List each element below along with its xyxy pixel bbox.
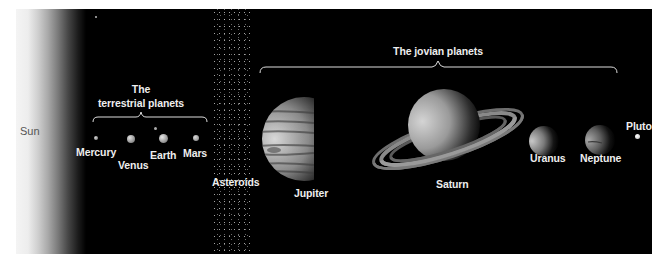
terrestrial-bracket-icon bbox=[92, 111, 208, 123]
neptune-label: Neptune bbox=[580, 152, 621, 164]
mercury-label: Mercury bbox=[76, 146, 116, 158]
saturn-graphic bbox=[366, 87, 531, 187]
terrestrial-group-label-line2: terrestrial planets bbox=[98, 97, 184, 109]
star-dot bbox=[95, 16, 97, 18]
mars-label: Mars bbox=[183, 147, 207, 159]
uranus-label: Uranus bbox=[530, 152, 566, 164]
earth-label: Earth bbox=[150, 149, 176, 161]
mercury-graphic bbox=[94, 136, 98, 140]
sun-label: Sun bbox=[20, 125, 40, 137]
earth-graphic bbox=[159, 134, 168, 143]
terrestrial-group-label-line1: The bbox=[132, 83, 150, 95]
jupiter-graphic bbox=[260, 96, 314, 182]
mars-graphic bbox=[193, 135, 199, 141]
asteroid-belt-graphic bbox=[212, 9, 252, 254]
pluto-graphic bbox=[635, 134, 640, 139]
solar-system-diagram: Sun The terrestrial planets Mercury Venu… bbox=[16, 9, 652, 254]
asteroids-label: Asteroids bbox=[212, 176, 260, 188]
moon-graphic bbox=[154, 127, 157, 130]
jovian-group-label: The jovian planets bbox=[393, 45, 483, 57]
venus-graphic bbox=[127, 135, 135, 143]
jupiter-label: Jupiter bbox=[294, 187, 328, 199]
jovian-bracket-icon bbox=[259, 60, 619, 74]
saturn-label: Saturn bbox=[436, 178, 469, 190]
pluto-label: Pluto bbox=[626, 120, 652, 132]
venus-label: Venus bbox=[118, 159, 148, 171]
